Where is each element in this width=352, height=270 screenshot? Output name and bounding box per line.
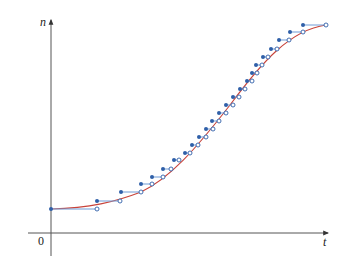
open-endpoint <box>95 207 99 211</box>
filled-endpoint <box>288 30 292 34</box>
filled-endpoint <box>238 87 242 91</box>
filled-endpoint <box>183 151 187 155</box>
filled-endpoint <box>224 103 228 107</box>
origin-label: 0 <box>38 234 44 248</box>
open-endpoint <box>301 30 305 34</box>
open-endpoint <box>250 79 254 83</box>
open-endpoint <box>266 55 270 59</box>
filled-endpoint <box>150 175 154 179</box>
open-endpoint <box>324 23 328 27</box>
step-function <box>49 23 328 211</box>
filled-endpoint <box>261 55 265 59</box>
open-endpoint <box>118 199 122 203</box>
filled-endpoint <box>204 127 208 131</box>
open-endpoint <box>224 111 228 115</box>
step-approximation-chart: n t 0 <box>0 0 352 270</box>
open-endpoint <box>177 158 181 162</box>
open-endpoint <box>287 38 291 42</box>
filled-endpoint <box>119 190 123 194</box>
y-axis-label: n <box>40 15 46 29</box>
open-endpoint <box>275 47 279 51</box>
filled-endpoint <box>277 38 281 42</box>
filled-endpoint <box>190 143 194 147</box>
open-endpoint <box>231 103 235 107</box>
sigmoid-curve <box>51 25 326 209</box>
x-axis-label: t <box>323 235 327 249</box>
open-endpoint <box>196 143 200 147</box>
filled-endpoint <box>245 79 249 83</box>
open-endpoint <box>255 71 259 75</box>
open-endpoint <box>237 95 241 99</box>
filled-endpoint <box>301 23 305 27</box>
open-endpoint <box>161 175 165 179</box>
open-endpoint <box>150 182 154 186</box>
filled-endpoint <box>49 207 53 211</box>
open-endpoint <box>243 87 247 91</box>
filled-endpoint <box>217 111 221 115</box>
filled-endpoint <box>269 47 273 51</box>
open-endpoint <box>204 135 208 139</box>
filled-endpoint <box>254 63 258 67</box>
filled-endpoint <box>197 135 201 139</box>
open-endpoint <box>217 119 221 123</box>
open-endpoint <box>169 167 173 171</box>
filled-endpoint <box>250 71 254 75</box>
filled-endpoint <box>210 119 214 123</box>
filled-endpoint <box>172 158 176 162</box>
filled-endpoint <box>95 199 99 203</box>
filled-endpoint <box>231 95 235 99</box>
filled-endpoint <box>161 167 165 171</box>
open-endpoint <box>260 63 264 67</box>
open-endpoint <box>188 151 192 155</box>
open-endpoint <box>211 127 215 131</box>
open-endpoint <box>139 190 143 194</box>
filled-endpoint <box>139 182 143 186</box>
